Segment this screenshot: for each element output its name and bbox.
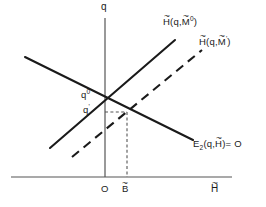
tilde-accent-icon: ~ (183, 12, 189, 21)
diagram-canvas (0, 0, 266, 207)
curve-h-m1-line (72, 50, 202, 157)
y-axis-label: q (101, 2, 107, 12)
point-label-q0: q0 (81, 90, 90, 100)
tilde-accent-icon: ~ (199, 32, 205, 41)
tilde-accent-icon: ~ (219, 32, 225, 41)
curve-label-e2-open: (q, (203, 138, 215, 149)
x-tick-label-b: ~B (122, 184, 129, 194)
curve-label-h-m1-close: ) (227, 36, 230, 47)
curve-label-h-m1-open: (q, (206, 36, 218, 47)
tilde-accent-icon: ~ (163, 12, 169, 21)
curve-label-h-m0-close: ) (194, 16, 197, 27)
curve-label-h-m1: ~H(q,~M') (199, 37, 231, 47)
curve-label-e2: E2(q,~H)= O (193, 139, 242, 149)
tilde-accent-icon: ~ (212, 179, 218, 188)
tilde-accent-icon: ~ (122, 179, 128, 188)
origin-label: O (101, 184, 109, 194)
curve-h-m0-line (50, 40, 175, 148)
curve-label-h-m0-open: (q, (170, 16, 182, 27)
point-label-q0-sup: 0 (86, 88, 90, 95)
point-label-q-prime: q' (83, 105, 90, 115)
curve-label-e2-eq: = O (226, 138, 242, 149)
tilde-accent-icon: ~ (216, 134, 222, 143)
economics-diagram-figure: q ~H O ~B q0 q' ~H(q,~M0) ~H(q,~M') E2(q… (0, 0, 266, 207)
x-axis-label: ~H (211, 184, 218, 194)
curve-label-h-m0: ~H(q,~M0) (163, 17, 197, 27)
point-label-q-prime-sup: ' (88, 103, 89, 110)
